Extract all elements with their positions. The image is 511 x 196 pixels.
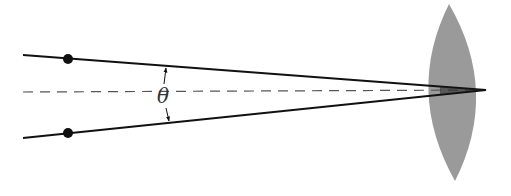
optical-axis-line xyxy=(23,90,486,92)
lower-point-dot xyxy=(63,128,73,138)
upper-point-dot xyxy=(63,54,73,64)
angle-arrow-lower xyxy=(166,108,169,121)
ray-diagram: θ xyxy=(0,0,511,196)
angle-arrow-upper xyxy=(164,68,166,84)
diagram-canvas: θ xyxy=(0,0,511,196)
angle-theta-label: θ xyxy=(157,84,169,108)
lower-ray-line xyxy=(23,90,486,138)
upper-ray-line xyxy=(23,55,486,90)
